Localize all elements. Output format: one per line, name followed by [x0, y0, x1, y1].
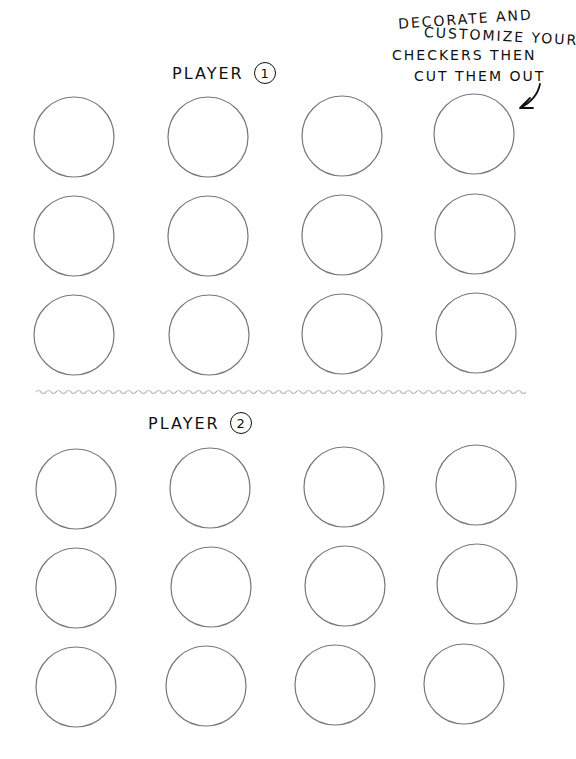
player-2-checker-10[interactable] — [166, 646, 246, 726]
player-1-checker-1[interactable] — [34, 97, 114, 177]
player-1-checker-9[interactable] — [34, 295, 114, 375]
wavy-cut-divider — [36, 391, 526, 394]
player-2-checker-2[interactable] — [170, 448, 250, 528]
player-1-checker-12[interactable] — [436, 293, 516, 373]
player-2-checkers — [36, 445, 517, 727]
player-1-checker-4[interactable] — [434, 94, 514, 174]
player-1-checker-3[interactable] — [302, 96, 382, 176]
player-1-checker-6[interactable] — [168, 196, 248, 276]
player-1-checker-2[interactable] — [168, 97, 248, 177]
player-1-checkers — [34, 94, 516, 375]
player-1-checker-11[interactable] — [302, 294, 382, 374]
player-1-checker-10[interactable] — [169, 295, 249, 375]
player-2-checker-4[interactable] — [436, 445, 516, 525]
player-1-checker-5[interactable] — [34, 196, 114, 276]
player-2-checker-11[interactable] — [295, 645, 375, 725]
player-2-checker-6[interactable] — [171, 547, 251, 627]
player-2-checker-1[interactable] — [36, 449, 116, 529]
player-2-checker-7[interactable] — [305, 546, 385, 626]
checkers-canvas — [0, 0, 576, 759]
player-2-checker-12[interactable] — [424, 644, 504, 724]
player-2-checker-8[interactable] — [437, 544, 517, 624]
player-2-checker-3[interactable] — [304, 447, 384, 527]
arrow-icon — [520, 84, 540, 108]
player-1-checker-8[interactable] — [435, 194, 515, 274]
player-1-checker-7[interactable] — [302, 195, 382, 275]
player-2-checker-9[interactable] — [36, 647, 116, 727]
player-2-checker-5[interactable] — [36, 548, 116, 628]
